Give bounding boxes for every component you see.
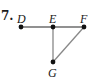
vertex-label-g: G [48,67,57,79]
vertex-g [51,60,56,65]
edge-f-g [53,27,84,62]
vertex-label-e: E [49,13,56,25]
vertex-label-f: F [80,13,87,25]
vertex-label-d: D [17,13,26,25]
